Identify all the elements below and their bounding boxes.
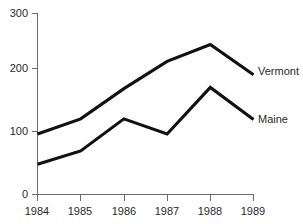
plot-area: [0, 0, 303, 224]
series-label-vermont: Vermont: [258, 65, 299, 77]
y-tick-label-200: 200: [0, 62, 28, 74]
series-line-maine: [38, 87, 254, 164]
x-tick-label-1984: 1984: [17, 205, 57, 217]
x-tick-label-1986: 1986: [104, 205, 144, 217]
x-tick-label-1989: 1989: [233, 205, 273, 217]
x-tick-label-1988: 1988: [190, 205, 230, 217]
y-tick-label-300: 300: [0, 7, 28, 19]
series-line-vermont: [38, 44, 254, 134]
series-label-maine: Maine: [258, 113, 288, 125]
x-tick-label-1985: 1985: [60, 205, 100, 217]
line-chart: 300 200 100 0 1984 1985 1986 1987 1988 1…: [0, 0, 303, 224]
y-tick-label-100: 100: [0, 125, 28, 137]
x-tick-label-1987: 1987: [147, 205, 187, 217]
y-tick-label-0: 0: [0, 188, 28, 200]
